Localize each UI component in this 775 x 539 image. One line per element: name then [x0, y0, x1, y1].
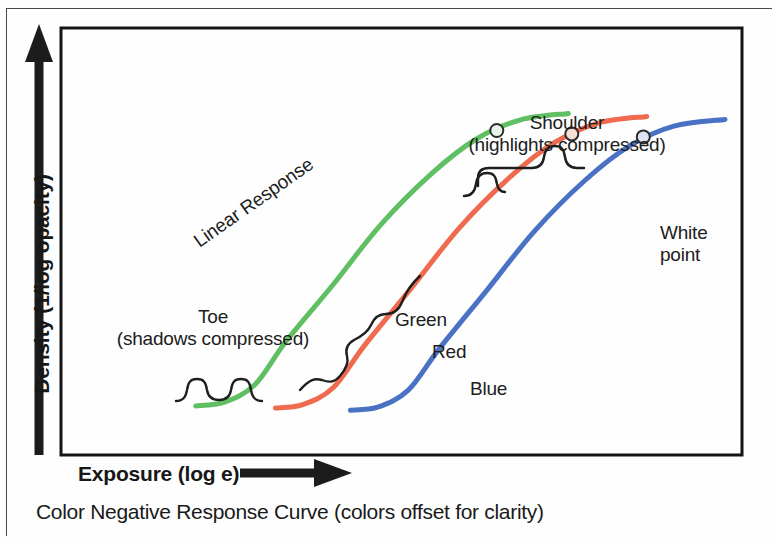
- plot-area-box: [61, 28, 742, 455]
- right-arrow-icon: [240, 459, 352, 487]
- annotation-toe-line1: Toe: [108, 306, 318, 328]
- y-axis-label: Density (1/log opacity): [30, 134, 54, 434]
- annotation-shoulder: Shoulder (highlights compressed): [452, 112, 682, 157]
- annotation-shoulder-line2: (highlights compressed): [452, 134, 682, 156]
- figure-container: Density (1/log opacity) Exposure (log e)…: [0, 0, 775, 539]
- annotation-toe: Toe (shadows compressed): [108, 306, 318, 351]
- x-axis-label: Exposure (log e): [78, 462, 239, 486]
- plot-frame: [61, 28, 742, 455]
- annotation-white-point-line1: White: [660, 222, 750, 244]
- annotation-toe-line2: (shadows compressed): [108, 328, 318, 350]
- chart-canvas: [0, 0, 775, 539]
- response-curves: [196, 113, 725, 410]
- curve-label-red: Red: [432, 341, 466, 363]
- annotation-white-point-line2: point: [660, 244, 750, 266]
- figure-caption: Color Negative Response Curve (colors of…: [36, 500, 544, 524]
- annotation-shoulder-line1: Shoulder: [452, 112, 682, 134]
- annotation-white-point: White point: [660, 222, 750, 267]
- brace-linear-response: [300, 276, 420, 390]
- curve-label-blue: Blue: [470, 378, 507, 400]
- curve-label-green: Green: [395, 309, 447, 331]
